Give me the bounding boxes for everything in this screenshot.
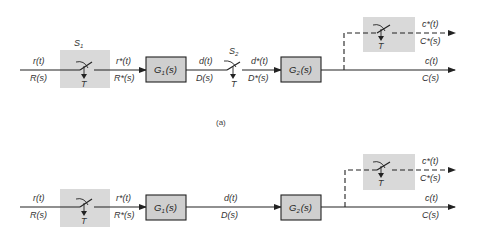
input-laplace-label: R(s) bbox=[30, 210, 47, 220]
sampled-intermediate-time-label: d*(t) bbox=[251, 56, 268, 66]
sampled-output-time-label: c*(t) bbox=[422, 19, 439, 29]
block-g1-label: G1(s) bbox=[154, 64, 177, 76]
intermediate-laplace-label: D(s) bbox=[196, 73, 213, 83]
output-sampler-shade bbox=[363, 154, 415, 190]
caption-a: (a) bbox=[216, 118, 226, 127]
sampled-intermediate-laplace-label: D*(s) bbox=[248, 73, 269, 83]
output-time-label: c(t) bbox=[425, 56, 438, 66]
input-time-label: r(t) bbox=[33, 193, 45, 203]
sampled-output-time-label: c*(t) bbox=[422, 156, 439, 166]
sampled-output-laplace-label: C*(s) bbox=[420, 173, 441, 183]
sampler1-label: S1 bbox=[74, 38, 83, 49]
input-time-label: r(t) bbox=[33, 56, 45, 66]
output-laplace-label: C(s) bbox=[422, 210, 439, 220]
sampled-input-laplace-label: R*(s) bbox=[114, 210, 135, 220]
block-g2-label: G2(s) bbox=[289, 64, 312, 76]
block-g1-label: G1(s) bbox=[154, 202, 177, 214]
output-sampler-shade bbox=[363, 17, 415, 52]
sampled-input-time-label: r*(t) bbox=[116, 193, 131, 203]
output-time-label: c(t) bbox=[425, 193, 438, 203]
diagram-b: r(t) R(s) T r*(t) R*(s) G1(s) d(t) D(s) … bbox=[20, 154, 455, 227]
sampler2-period: T bbox=[231, 79, 238, 89]
input-laplace-label: R(s) bbox=[30, 73, 47, 83]
sampler2-label: S2 bbox=[229, 46, 239, 57]
sampled-data-block-diagrams: S1 r(t) R(s) T r*(t) R*(s) G1(s) d(t) D(… bbox=[0, 0, 477, 237]
intermediate-laplace-label: D(s) bbox=[221, 210, 238, 220]
block-g2-label: G2(s) bbox=[289, 202, 312, 214]
sampled-input-laplace-label: R*(s) bbox=[114, 73, 135, 83]
diagram-a: S1 r(t) R(s) T r*(t) R*(s) G1(s) d(t) D(… bbox=[20, 17, 455, 89]
output-laplace-label: C(s) bbox=[422, 73, 439, 83]
intermediate-time-label: d(t) bbox=[224, 193, 238, 203]
intermediate-time-label: d(t) bbox=[199, 56, 213, 66]
sampled-output-laplace-label: C*(s) bbox=[420, 36, 441, 46]
sampled-input-time-label: r*(t) bbox=[116, 56, 131, 66]
